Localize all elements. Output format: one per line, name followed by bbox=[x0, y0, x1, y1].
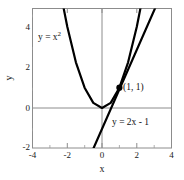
x-major-ticks-top bbox=[33, 9, 172, 14]
parabola-label: y = x2 bbox=[38, 31, 61, 43]
x-tick-label-1: -2 bbox=[64, 151, 72, 160]
x-major-ticks bbox=[33, 143, 172, 148]
parabola-label-exponent: 2 bbox=[58, 30, 62, 38]
tangent-point-marker bbox=[116, 85, 122, 91]
tangent-line-label: y = 2x - 1 bbox=[112, 118, 149, 128]
y-tick-label-3: -2 bbox=[23, 143, 31, 152]
x-axis-title: x bbox=[100, 164, 105, 174]
parabola-label-text: y = x bbox=[38, 32, 58, 42]
x-tick-label-3: 2 bbox=[135, 151, 140, 160]
tangent-point-label: (1, 1) bbox=[123, 83, 144, 93]
x-tick-label-0: -4 bbox=[29, 151, 37, 160]
x-tick-label-4: 4 bbox=[169, 151, 174, 160]
y-tick-label-0: 4 bbox=[26, 22, 31, 31]
y-tick-label-2: 0 bbox=[26, 104, 31, 113]
y-axis-title: y bbox=[4, 76, 14, 81]
chart-figure: -4 -2 0 2 4 4 2 0 -2 x y y = x2 y = 2x -… bbox=[0, 0, 184, 180]
y-tick-label-1: 2 bbox=[26, 63, 31, 72]
x-tick-label-2: 0 bbox=[100, 151, 105, 160]
